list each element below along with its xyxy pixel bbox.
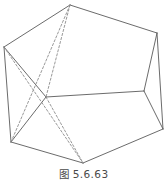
edge-left-bottom-left <box>4 47 11 142</box>
edge-left-center <box>4 47 46 97</box>
hidden-edge-bottom-left-top <box>11 5 70 142</box>
edge-top-right-upper <box>70 5 157 33</box>
edge-right-upper-right-middle <box>144 33 157 91</box>
edge-top-left <box>4 5 70 47</box>
edge-right-upper-bottom-right <box>157 33 163 129</box>
edge-bottom-bottom-right <box>83 129 163 163</box>
hidden-edge-top-center <box>46 5 70 97</box>
figure-caption: 图 5.6.63 <box>0 168 167 181</box>
edge-right-middle-bottom-right <box>144 91 163 129</box>
edge-center-bottom-left <box>11 97 46 142</box>
hidden-edge-left-bottom <box>4 47 83 163</box>
dashed-edge-group <box>4 5 83 163</box>
figure-panel: 图 5.6.63 <box>0 0 167 187</box>
polyhedron-diagram <box>0 0 167 187</box>
hidden-edge-center-bottom <box>46 97 83 163</box>
solid-edge-group <box>4 5 163 163</box>
edge-bottom-left-bottom <box>11 142 83 163</box>
edge-center-right-middle <box>46 91 144 97</box>
